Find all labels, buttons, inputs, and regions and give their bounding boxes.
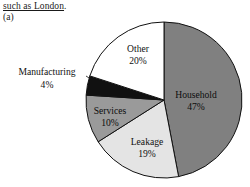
- pie-value-household: 47%: [187, 101, 205, 112]
- pie-chart-figure: Household47%Leakage19%Services10%Manufac…: [0, 0, 250, 187]
- pie-value-other: 20%: [129, 55, 147, 66]
- page-canvas: such as London. (a) Household47%Leakage1…: [0, 0, 250, 187]
- pie-label-household: Household: [175, 89, 217, 100]
- pie-value-manufacturing: 4%: [41, 79, 54, 90]
- pie-label-leakage: Leakage: [131, 136, 164, 147]
- pie-label-manufacturing: Manufacturing: [18, 66, 75, 77]
- pie-value-services: 10%: [101, 117, 119, 128]
- pie-chart-svg: Household47%Leakage19%Services10%Manufac…: [0, 0, 250, 187]
- pie-label-services: Services: [94, 105, 127, 116]
- pie-label-other: Other: [127, 43, 150, 54]
- pie-slice-group: [86, 22, 242, 178]
- pie-value-leakage: 19%: [138, 148, 156, 159]
